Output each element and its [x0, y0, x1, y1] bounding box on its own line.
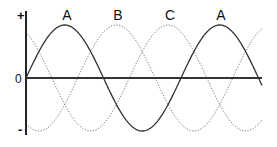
y-label-zero: 0 — [15, 72, 22, 86]
y-label-plus: + — [17, 8, 25, 23]
three-phase-waveform-chart: + 0 - A B C A — [0, 0, 277, 147]
peak-label-a: A — [62, 7, 72, 23]
peak-label-b: B — [113, 7, 122, 23]
y-label-minus: - — [18, 122, 22, 137]
peak-label-c: C — [165, 7, 175, 23]
peak-label-a-second: A — [216, 7, 226, 23]
